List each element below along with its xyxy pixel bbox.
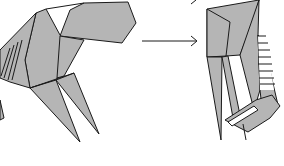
model-after bbox=[207, 0, 280, 140]
origami-diagram bbox=[0, 0, 284, 166]
incoming-arrow-tip bbox=[191, 0, 196, 4]
step-arrow bbox=[142, 36, 197, 46]
hatching-ladder bbox=[258, 36, 275, 90]
model-before bbox=[0, 2, 136, 142]
